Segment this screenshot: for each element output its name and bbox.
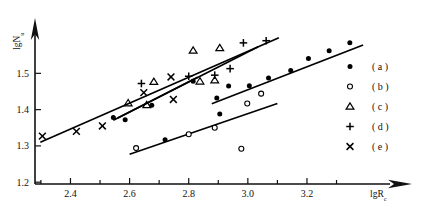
data-point-open-circle [245, 101, 250, 106]
data-point-triangle [150, 78, 158, 84]
data-point-open-circle [239, 146, 244, 151]
chart-figure: 2.42.62.83.03.21.21.31.41.5lgNulgRc( a )… [0, 0, 423, 216]
x-axis-arrowhead [388, 180, 412, 188]
data-point-filled-circle [163, 137, 168, 142]
x-tick-label: 2.6 [123, 188, 136, 199]
trend-line-upper-main [40, 38, 279, 142]
y-axis-title-text: lgNu [12, 32, 25, 50]
data-point-filled-circle [288, 68, 293, 73]
y-tick-label: 1.4 [17, 104, 30, 115]
data-point-filled-circle [191, 79, 196, 84]
data-point-filled-circle [111, 115, 116, 120]
y-axis-title: lgNu [12, 32, 25, 50]
legend-marker-triangle [346, 103, 354, 109]
x-tick-label: 3.0 [242, 188, 255, 199]
y-tick-label: 1.2 [17, 177, 30, 188]
legend-label-triangle: ( c ) [372, 101, 388, 113]
x-tick-label: 2.4 [64, 188, 77, 199]
legend-label-plus: ( d ) [372, 121, 389, 133]
y-tick-label: 1.5 [17, 68, 30, 79]
x-tick-label: 2.8 [182, 188, 195, 199]
data-point-triangle [196, 78, 204, 84]
trend-line-lower [130, 103, 278, 154]
legend-label-open-circle: ( b ) [372, 81, 389, 93]
data-point-filled-circle [327, 48, 332, 53]
scatter-plot: 2.42.62.83.03.21.21.31.41.5lgNulgRc( a )… [0, 0, 423, 216]
data-point-filled-circle [306, 56, 311, 61]
data-point-triangle [189, 47, 197, 53]
data-point-filled-circle [266, 76, 271, 81]
legend-marker-filled-circle [348, 64, 353, 69]
data-point-filled-circle [347, 40, 352, 45]
data-point-open-circle [259, 91, 264, 96]
data-point-open-circle [186, 132, 191, 137]
legend-label-cross: ( e ) [372, 141, 388, 153]
data-point-open-circle [212, 125, 217, 130]
data-point-filled-circle [247, 83, 252, 88]
y-tick-label: 1.3 [17, 140, 30, 151]
data-point-open-circle [134, 146, 139, 151]
data-point-filled-circle [226, 84, 231, 89]
data-point-triangle [216, 44, 224, 50]
trend-line-middle [212, 45, 363, 104]
data-point-filled-circle [217, 111, 222, 116]
data-point-filled-circle [123, 117, 128, 122]
legend-label-filled-circle: ( a ) [372, 61, 388, 73]
x-tick-label: 3.2 [301, 188, 314, 199]
data-point-filled-circle [214, 96, 219, 101]
x-axis-title: lgRc [370, 189, 387, 202]
legend-marker-open-circle [348, 84, 353, 89]
